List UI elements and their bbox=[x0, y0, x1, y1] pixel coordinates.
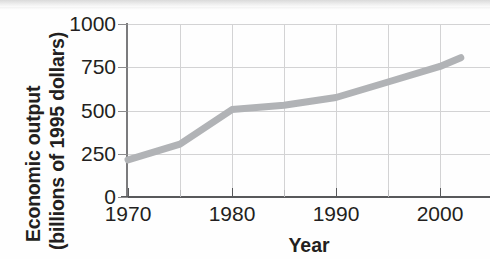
y-axis-tick bbox=[118, 197, 128, 198]
data-line-economic-output bbox=[128, 58, 461, 160]
x-axis-tick bbox=[232, 188, 233, 197]
x-axis-minor-tick bbox=[180, 190, 181, 197]
x-axis-tick bbox=[128, 188, 129, 197]
y-axis-tick bbox=[118, 67, 128, 68]
y-axis-tick bbox=[118, 154, 128, 155]
x-axis-minor-tick bbox=[284, 190, 285, 197]
data-series-layer bbox=[0, 0, 490, 259]
x-axis-tick bbox=[336, 188, 337, 197]
x-axis-minor-tick bbox=[388, 190, 389, 197]
economic-output-line-chart: Economic output (billions of 1995 dollar… bbox=[0, 0, 490, 259]
y-axis-tick bbox=[118, 24, 128, 25]
y-axis-tick bbox=[118, 111, 128, 112]
x-axis-tick bbox=[440, 188, 441, 197]
x-axis-title: Year bbox=[128, 235, 490, 255]
